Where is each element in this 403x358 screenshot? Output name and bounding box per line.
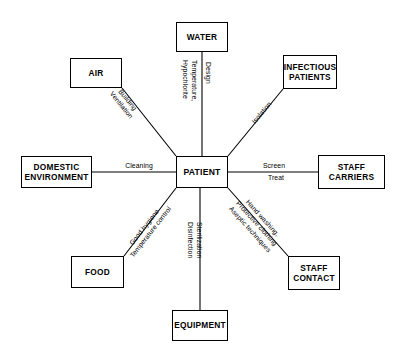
edge-label-water-right: Design: [204, 62, 212, 84]
node-air-label: AIR: [87, 68, 104, 78]
node-staff-carriers-label: STAFF CARRIERS: [328, 162, 375, 183]
node-patient-label: PATIENT: [182, 167, 221, 178]
node-water[interactable]: WATER: [176, 22, 228, 52]
node-food[interactable]: FOOD: [71, 256, 124, 288]
node-equipment-label: EQUIPMENT: [173, 320, 227, 330]
edge-label-carriers-above: Screen: [253, 162, 295, 170]
node-infectious-patients-label: INFECTIOUS PATIENTS: [283, 62, 338, 83]
diagram-canvas: WATER AIR INFECTIOUS PATIENTS DOMESTIC E…: [0, 0, 403, 358]
edge-label-water-left: Temperature, Hypochlorite: [181, 60, 198, 101]
node-domestic-environment-label: DOMESTIC ENVIRONMENT: [23, 162, 89, 183]
node-equipment[interactable]: EQUIPMENT: [172, 310, 228, 341]
node-water-label: WATER: [186, 32, 219, 42]
node-infectious-patients[interactable]: INFECTIOUS PATIENTS: [283, 55, 337, 89]
edge-label-domestic-measure: Cleaning: [113, 162, 165, 170]
edge-label-carriers-below: Treat: [256, 174, 296, 182]
node-staff-contact[interactable]: STAFF CONTACT: [288, 256, 340, 290]
node-patient[interactable]: PATIENT: [176, 156, 228, 188]
node-staff-contact-label: STAFF CONTACT: [292, 263, 336, 284]
node-domestic-environment[interactable]: DOMESTIC ENVIRONMENT: [21, 156, 92, 188]
edge-label-equipment-measures: Sterilization Disinfection: [186, 222, 203, 258]
node-staff-carriers[interactable]: STAFF CARRIERS: [318, 155, 385, 189]
node-food-label: FOOD: [84, 267, 111, 277]
